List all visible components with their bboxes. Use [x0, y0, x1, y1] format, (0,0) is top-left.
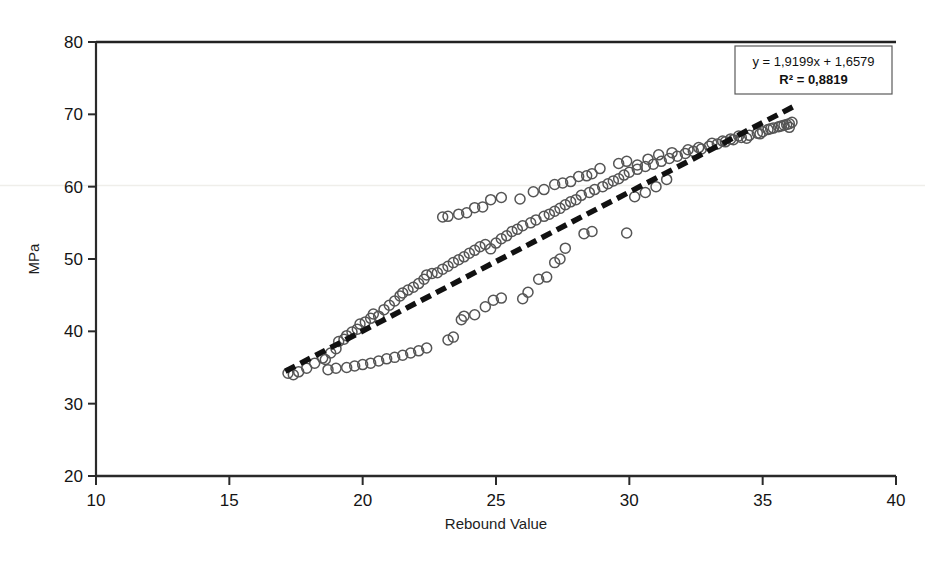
data-point-marker: [651, 182, 661, 192]
data-point-marker: [560, 243, 570, 253]
data-point-marker: [496, 193, 506, 203]
y-tick-label: 60: [64, 178, 83, 197]
data-point-marker: [528, 187, 538, 197]
scatter-plot: 2030405060708010152025303540Rebound Valu…: [0, 0, 925, 561]
y-axis-title: MPa: [25, 243, 42, 275]
y-tick-label: 70: [64, 105, 83, 124]
data-point-marker: [518, 294, 528, 304]
data-point-marker: [622, 228, 632, 238]
data-points: [283, 117, 797, 379]
x-axis-ticks: 10152025303540: [87, 476, 906, 510]
data-point-marker: [640, 187, 650, 197]
y-tick-label: 50: [64, 250, 83, 269]
y-tick-label: 80: [64, 33, 83, 52]
chart-container: 2030405060708010152025303540Rebound Valu…: [0, 0, 925, 561]
equation-annotation-box: y = 1,9199x + 1,6579R² = 0,8819: [735, 46, 892, 94]
x-tick-label: 40: [887, 491, 906, 510]
y-tick-label: 20: [64, 467, 83, 486]
data-point-marker: [470, 310, 480, 320]
x-tick-label: 10: [87, 491, 106, 510]
y-tick-label: 40: [64, 322, 83, 341]
x-tick-label: 35: [753, 491, 772, 510]
equation-text: y = 1,9199x + 1,6579: [752, 54, 874, 69]
trendline: [285, 106, 794, 371]
r-squared-text: R² = 0,8819: [779, 72, 847, 87]
data-point-marker: [515, 194, 525, 204]
y-axis-ticks: 20304050607080: [64, 33, 96, 486]
x-tick-label: 20: [353, 491, 372, 510]
x-tick-label: 25: [487, 491, 506, 510]
data-point-marker: [523, 287, 533, 297]
data-point-marker: [595, 164, 605, 174]
x-tick-label: 15: [220, 491, 239, 510]
y-tick-label: 30: [64, 395, 83, 414]
data-point-marker: [654, 150, 664, 160]
data-point-marker: [630, 192, 640, 202]
x-tick-label: 30: [620, 491, 639, 510]
x-axis-title: Rebound Value: [445, 515, 547, 532]
data-point-marker: [486, 195, 496, 205]
